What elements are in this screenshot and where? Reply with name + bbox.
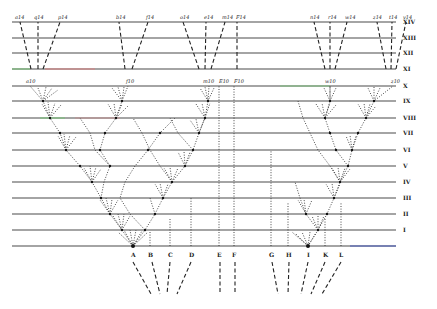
- species-label: w10: [325, 78, 336, 84]
- species-letters: A B C D E F G H I K L: [130, 251, 344, 258]
- species-label: v14: [403, 14, 412, 20]
- generation-label: III: [403, 194, 412, 201]
- generation-label: VIII: [402, 114, 416, 121]
- species-label: f10: [125, 78, 135, 85]
- species-label: p14: [58, 14, 68, 21]
- species-letter-e: E: [217, 251, 222, 258]
- species-label: m14: [222, 14, 233, 20]
- generation-label: II: [403, 210, 409, 217]
- species-label: z14: [372, 14, 382, 20]
- node-a: [131, 244, 135, 248]
- species-label: w14: [345, 14, 356, 20]
- species-letter-c: C: [168, 251, 173, 258]
- species-label: E10: [218, 78, 230, 84]
- species-label: F14: [235, 14, 246, 20]
- generation-label: V: [402, 162, 408, 169]
- generation-label: X: [403, 82, 408, 89]
- species-label: a14: [15, 14, 24, 20]
- species-label: m10: [203, 78, 215, 84]
- generation-labels: XIV XIII XII XI X IX VIII VII VI V IV II…: [402, 18, 416, 233]
- node-i: [306, 244, 310, 248]
- species-label: b14: [116, 14, 126, 20]
- species-letter-b: B: [148, 251, 153, 258]
- species-label: f14: [145, 14, 154, 21]
- upper-lineages: [20, 22, 406, 69]
- species-letter-f: F: [232, 251, 237, 258]
- species-letter-i: I: [307, 251, 310, 258]
- generation-label: VI: [402, 146, 411, 153]
- generation-label: IX: [403, 97, 411, 104]
- top-species-labels: a14 q14 p14 b14 f14 o14 e14 m14 F14 n14 …: [15, 14, 412, 21]
- generation-label: XI: [403, 65, 411, 72]
- ancestral-roots: [133, 262, 341, 294]
- generation-label: I: [403, 226, 406, 233]
- species-letter-a: A: [130, 251, 136, 258]
- generation-label: XII: [403, 49, 413, 56]
- species-letter-d: D: [189, 251, 194, 258]
- species-label: r14: [328, 14, 337, 20]
- species-letter-l: L: [339, 251, 344, 258]
- generation-label: VII: [402, 129, 413, 136]
- species-label: q14: [34, 14, 44, 21]
- generation-label: IV: [403, 178, 411, 185]
- species-label: F10: [233, 78, 245, 84]
- lineage-tree-a: [30, 86, 214, 248]
- species-label: a10: [26, 78, 36, 84]
- generation-label: XIII: [403, 34, 416, 41]
- species-label: n14: [310, 14, 320, 20]
- species-label: z10: [390, 78, 401, 84]
- species-letter-h: H: [286, 251, 292, 258]
- lineage-tree-i: [292, 86, 393, 248]
- phylogenetic-diagram: XIV XIII XII XI X IX VIII VII VI V IV II…: [0, 0, 437, 309]
- species-label: t14: [389, 14, 397, 20]
- species-letter-g: G: [269, 251, 274, 258]
- species-label: o14: [180, 14, 189, 20]
- species-letter-k: K: [323, 251, 329, 258]
- species-label: e14: [204, 14, 213, 20]
- generation-x-labels: a10 f10 m10 E10 F10 w10 z10: [26, 78, 401, 85]
